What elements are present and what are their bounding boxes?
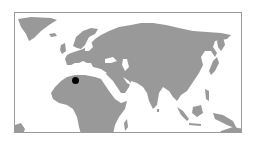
borneo xyxy=(192,105,203,117)
iceland xyxy=(49,33,57,37)
uk xyxy=(60,43,66,54)
new-guinea xyxy=(213,113,237,129)
australia xyxy=(219,127,242,133)
philippines xyxy=(205,89,209,101)
sumatra xyxy=(177,107,189,121)
location-marker[interactable] xyxy=(72,77,79,84)
greenland xyxy=(18,17,57,41)
sri-lanka xyxy=(157,109,159,112)
south-america xyxy=(15,123,25,133)
world-map xyxy=(15,13,242,133)
japan xyxy=(209,57,219,75)
java xyxy=(189,123,201,126)
map-frame xyxy=(14,12,242,133)
madagascar xyxy=(124,119,128,131)
